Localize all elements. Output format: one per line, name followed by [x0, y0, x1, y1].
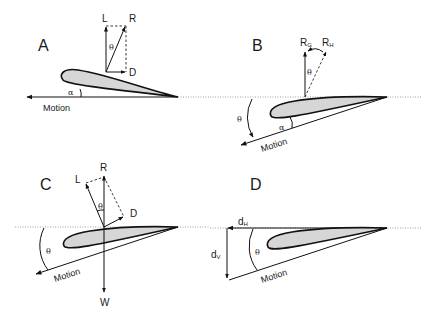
resultant-label: R	[100, 162, 107, 173]
weight-label: W	[100, 297, 110, 308]
airfoil	[267, 228, 387, 249]
panel-a: A α Motion L R D θ	[27, 13, 210, 113]
lift-label: L	[102, 13, 108, 24]
theta-glide-label: θ	[237, 115, 242, 124]
panel-c: C θ Motion θ R L D W	[15, 162, 210, 308]
theta-vec-label: θ	[307, 68, 312, 77]
lift-label: L	[75, 174, 81, 185]
motion-label: Motion	[43, 103, 70, 113]
motion-label: Motion	[260, 136, 289, 154]
alpha-label: α	[279, 123, 285, 132]
panel-d: D θ Motion dH dV	[210, 176, 421, 285]
rh-label: RH	[322, 37, 334, 48]
theta-glide-label: θ	[46, 247, 51, 256]
panel-label-a: A	[38, 37, 49, 54]
panel-label-b: B	[252, 37, 263, 54]
theta-vec-label: θ	[98, 202, 103, 211]
drag-vector	[104, 217, 123, 227]
alpha-arc	[80, 89, 81, 97]
airfoil	[63, 227, 178, 248]
rotation-arc	[308, 49, 323, 52]
dv-label: dV	[211, 249, 221, 260]
theta-label: θ	[255, 248, 260, 257]
airfoil	[61, 70, 178, 97]
motion-label: Motion	[260, 267, 289, 285]
panel-b: B θ α Motion θ RG RH	[210, 37, 421, 154]
theta-arc	[247, 99, 253, 137]
rg-label: RG	[300, 37, 312, 48]
dashed-construction	[104, 177, 124, 217]
alpha-arc	[290, 117, 292, 128]
panel-label-c: C	[40, 176, 52, 193]
theta-label: θ	[109, 43, 114, 52]
drag-label: D	[129, 67, 136, 78]
dh-label: dH	[238, 216, 248, 227]
alpha-label: α	[68, 88, 74, 97]
drag-label: D	[130, 208, 137, 219]
motion-label: Motion	[53, 266, 82, 284]
dashed-construction	[86, 177, 104, 183]
gliding-aerodynamics-figure: A α Motion L R D θ B θ α Motion	[0, 0, 421, 321]
airfoil	[270, 97, 387, 118]
resultant-label: R	[129, 13, 136, 24]
panel-label-d: D	[250, 176, 262, 193]
